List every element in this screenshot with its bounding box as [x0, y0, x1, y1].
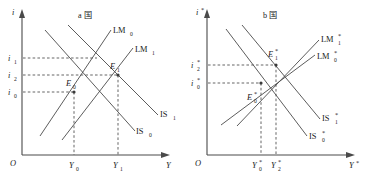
curve-LM0star: [221, 55, 315, 125]
point-label-E0star-star: *: [254, 90, 257, 97]
curve-label-IS0-sub: 0: [149, 132, 152, 138]
x-tick-Y2star-base: Y: [271, 161, 277, 170]
curve-label-IS1-sub: 1: [173, 115, 176, 121]
y-tick-i1-base: i: [8, 54, 11, 63]
y-tick-i0-base: i: [8, 88, 11, 97]
point-label-E1star-star: *: [275, 47, 278, 54]
islm-two-country-figure: a 国 i Y O i 1 i 2 i 0 Y 0: [0, 0, 371, 180]
panel-b-origin-label: O: [195, 159, 201, 168]
curve-label-LM1-base: LM: [135, 45, 148, 54]
curve-label-LM0star-sub: 0: [334, 57, 337, 63]
curve-label-LM0star-star: *: [334, 49, 337, 56]
panel-b-axes: [204, 9, 355, 158]
panel-a-curve-label-LM0: LM 0: [113, 26, 133, 37]
x-tick-Y0star-star: *: [259, 158, 262, 165]
panel-a-origin-label: O: [10, 159, 16, 168]
panel-b-title: b 国: [263, 11, 277, 20]
curve-label-IS0star-sub: 0: [322, 137, 325, 143]
y-tick-i0-sub: 0: [14, 93, 17, 99]
curve-label-LM0-sub: 0: [130, 31, 133, 37]
point-label-E0-base: E: [65, 79, 71, 88]
panel-a-curve-label-LM1: LM 1: [135, 45, 155, 56]
curve-label-IS1star-base: IS: [322, 114, 330, 123]
panel-a-curve-label-IS0: IS 0: [136, 127, 152, 138]
equilibrium-dot-E0: [72, 90, 75, 93]
y-tick-i2star-sub: 2: [197, 66, 200, 72]
equilibrium-dot-E1star: [274, 63, 277, 66]
panel-a-y-tick-i1: i 1: [8, 54, 17, 65]
x-tick-Y2star-sub: 2: [278, 166, 281, 172]
panel-b-point-label-E1star: E 1 *: [267, 47, 278, 61]
y-tick-i2star-base: i: [191, 61, 194, 70]
curve-label-IS0star-base: IS: [309, 132, 317, 141]
curve-label-LM1star-base: LM: [321, 35, 334, 44]
curve-label-IS1star-sub: 1: [335, 119, 338, 125]
y-axis-arrow: [204, 9, 210, 18]
y-axis-arrow: [19, 9, 25, 18]
curve-label-LM1star-sub: 1: [338, 40, 341, 46]
panel-b: b 国 i * Y * O i 2 * i 0 *: [185, 0, 371, 180]
curve-IS0: [45, 30, 135, 131]
panel-b-x-axis-label-base: Y: [349, 161, 355, 170]
panel-b-x-tick-Y2star: Y 2 *: [271, 158, 281, 172]
curve-IS1star: [242, 25, 320, 119]
panel-b-guidelines: [208, 65, 276, 155]
panel-b-point-label-E0star: E 0 *: [246, 90, 257, 104]
curve-label-LM0star-base: LM: [317, 52, 330, 61]
point-label-E1-sub: 1: [117, 67, 120, 73]
x-tick-Y2star-star: *: [278, 158, 281, 165]
curve-label-LM0-base: LM: [113, 26, 126, 35]
curve-label-IS0star-star: *: [322, 129, 325, 136]
curve-label-IS1star-star: *: [335, 111, 338, 118]
panel-b-y-tick-i0star: i 0 *: [191, 76, 200, 90]
panel-b-plot: b 国 i * Y * O i 2 * i 0 *: [185, 0, 371, 180]
point-label-E1star-sub: 1: [275, 55, 278, 61]
panel-b-y-axis-label-base: i: [196, 8, 199, 17]
y-tick-i0star-base: i: [191, 79, 194, 88]
panel-a-y-axis-label: i: [12, 8, 15, 17]
panel-a-title: a 国: [78, 11, 92, 20]
point-label-E0star-sub: 0: [254, 98, 257, 104]
panel-a-x-tick-Y0: Y 0: [69, 161, 79, 172]
panel-b-x-axis-label-star: *: [356, 159, 359, 166]
curve-label-IS1-base: IS: [160, 110, 168, 119]
y-tick-i2star-star: *: [197, 58, 200, 65]
y-tick-i0star-sub: 0: [197, 84, 200, 90]
x-tick-Y1-base: Y: [113, 161, 119, 170]
panel-a-x-tick-Y1: Y 1: [113, 161, 123, 172]
curve-LM1: [62, 48, 133, 140]
panel-b-x-tick-Y0star: Y 0 *: [252, 158, 262, 172]
panel-a-plot: a 国 i Y O i 1 i 2 i 0 Y 0: [0, 0, 186, 180]
x-tick-Y0-base: Y: [69, 161, 75, 170]
panel-b-curve-label-LM0star: LM 0 *: [317, 49, 337, 63]
point-label-E1star-base: E: [267, 50, 273, 59]
panel-b-y-axis-label-star: *: [201, 6, 204, 13]
panel-a-guidelines: [23, 58, 118, 155]
y-tick-i2-sub: 2: [14, 76, 17, 82]
panel-b-y-tick-i2star: i 2 *: [191, 58, 200, 72]
curve-IS0star: [226, 29, 307, 136]
x-tick-Y0star-base: Y: [252, 161, 258, 170]
y-tick-i0star-star: *: [197, 76, 200, 83]
x-axis-arrow: [161, 152, 170, 158]
panel-a-point-label-E0: E 0: [65, 79, 76, 90]
panel-a-axes: [19, 9, 170, 158]
panel-b-curve-label-LM1star: LM 1 *: [321, 32, 341, 46]
curve-label-IS0-base: IS: [136, 127, 144, 136]
point-label-E0star-base: E: [246, 93, 252, 102]
panel-b-curve-label-IS0star: IS 0 *: [309, 129, 325, 143]
curve-label-LM1star-star: *: [338, 32, 341, 39]
equilibrium-dot-E1: [116, 73, 119, 76]
panel-b-curve-label-IS1star: IS 1 *: [322, 111, 338, 125]
y-tick-i2-base: i: [8, 71, 11, 80]
x-axis-arrow: [346, 152, 355, 158]
curve-label-LM1-sub: 1: [152, 50, 155, 56]
panel-a-curve-label-IS1: IS 1: [160, 110, 176, 121]
panel-b-y-axis-label: i *: [196, 6, 204, 17]
x-tick-Y0star-sub: 0: [259, 166, 262, 172]
point-label-E0-sub: 0: [73, 84, 76, 90]
equilibrium-dot-E0star: [259, 81, 262, 84]
curve-LM0: [40, 30, 111, 136]
panel-a-y-tick-i2: i 2: [8, 71, 17, 82]
panel-b-curves: [221, 25, 320, 136]
